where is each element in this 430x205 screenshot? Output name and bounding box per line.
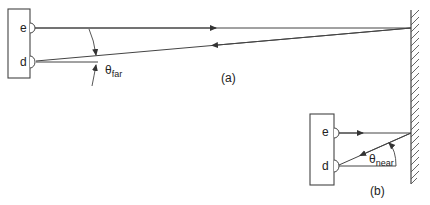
detector-label-near: d: [322, 160, 329, 172]
theta-subscript-far: far: [112, 69, 123, 79]
theta-near-label: θnear: [369, 153, 394, 169]
theta-subscript-near: near: [376, 158, 394, 168]
theta-symbol: θ: [369, 152, 376, 166]
reflection-angle-diagram: e d θfar (a) e d θnear (b): [0, 0, 430, 205]
theta-symbol: θ: [105, 63, 112, 77]
mirror-wall: [411, 10, 419, 184]
panel-a-label: (a): [221, 72, 236, 84]
emitter-label-far: e: [20, 22, 27, 34]
theta-far-label: θfar: [105, 64, 122, 80]
beams-far: [35, 28, 411, 62]
panel-b-label: (b): [370, 185, 385, 197]
diagram-canvas: [0, 0, 430, 205]
angle-arrows-far: [89, 29, 96, 86]
emitter-label-near: e: [322, 126, 329, 138]
detector-label-far: d: [20, 56, 27, 68]
